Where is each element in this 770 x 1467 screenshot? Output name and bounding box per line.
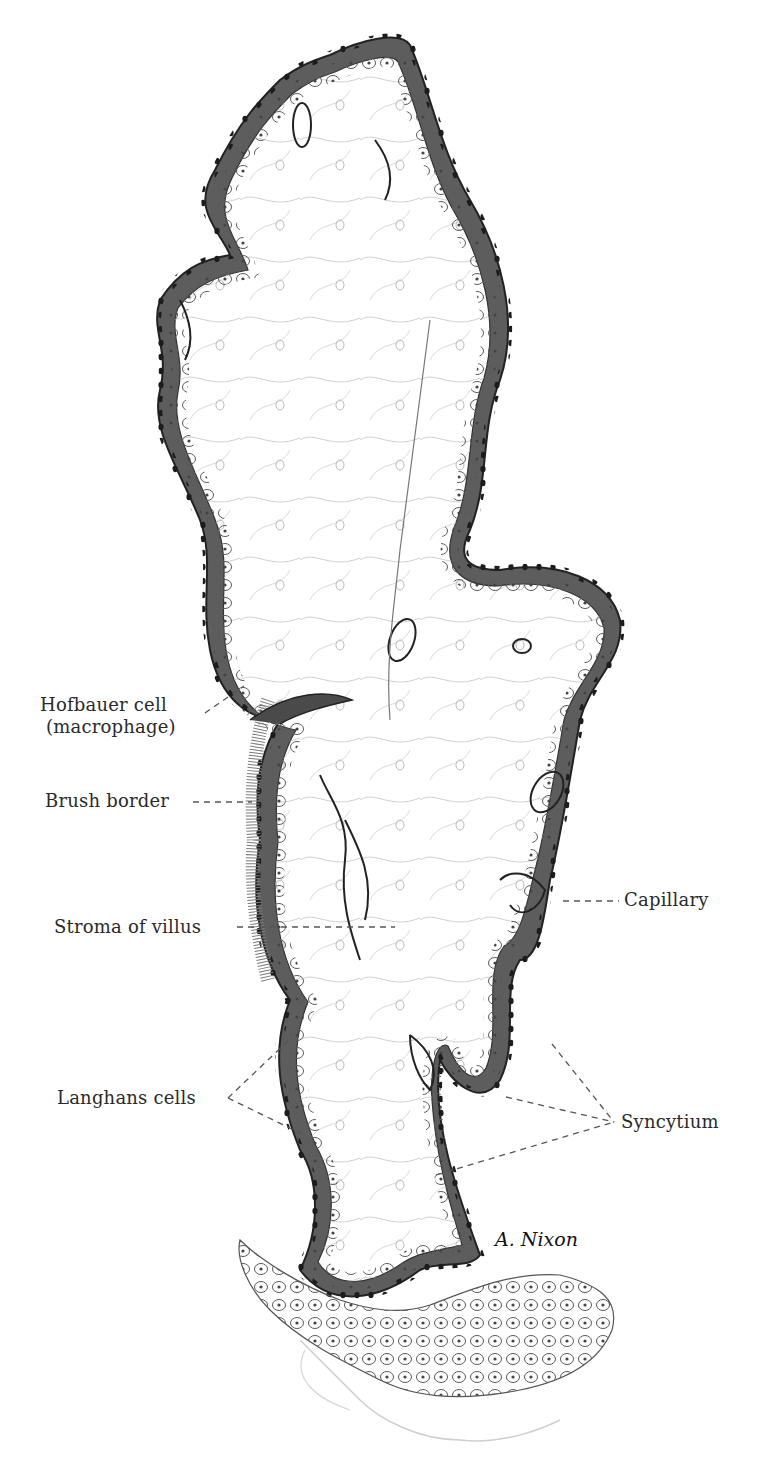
artist-signature: A. Nixon [495,1228,578,1250]
label-hofbauer-cell: Hofbauer cell (macrophage) [40,694,176,738]
label-brush-border: Brush border [45,790,169,812]
label-langhans-cells: Langhans cells [57,1087,196,1109]
label-stroma-of-villus: Stroma of villus [54,916,201,938]
leader-syncytium-2 [506,1097,614,1122]
label-hofbauer-line2: (macrophage) [40,716,176,738]
label-capillary: Capillary [624,889,709,911]
label-syncytium: Syncytium [621,1111,719,1133]
label-hofbauer-line1: Hofbauer cell [40,694,176,716]
leader-syncytium-3 [436,1122,614,1175]
